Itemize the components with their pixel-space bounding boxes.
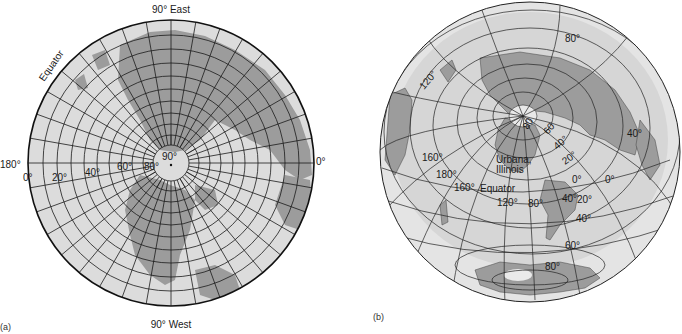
north-pole-dot xyxy=(170,164,172,166)
label-180: 180° xyxy=(0,159,21,170)
label-90-west: 90° West xyxy=(151,319,192,330)
label-lon-0-right: 0° xyxy=(605,174,615,185)
label-lat-80s: 80° xyxy=(545,261,560,272)
label-lat-40s: 40° xyxy=(576,213,591,224)
label-lon-160-b: 160° xyxy=(454,182,475,193)
label-0-deg: 0° xyxy=(316,156,326,167)
label-lat-60s: 60° xyxy=(565,240,580,251)
label-lat-20: 20° xyxy=(52,172,67,183)
label-illinois: Illinois xyxy=(496,164,524,175)
polar-map-a: 90° East 90° West 180° 0° Equator 90° 80… xyxy=(0,4,326,330)
label-90-east: 90° East xyxy=(152,4,190,15)
label-center-90: 90° xyxy=(162,151,177,162)
map-figure: 90° East 90° West 180° 0° Equator 90° 80… xyxy=(0,0,682,334)
label-lat-20s: 20° xyxy=(577,194,592,205)
panel-label-b: (b) xyxy=(373,312,384,322)
label-lon-180: 180° xyxy=(436,169,457,180)
label-lat-40-east: 40° xyxy=(627,128,642,139)
label-lat-60: 60° xyxy=(117,161,132,172)
azimuthal-map-b: 80° 120° 80 60 40° 20° 40° 160° Urbana, … xyxy=(380,2,680,305)
label-lat-0: 0° xyxy=(23,172,33,183)
label-lon-0: 0° xyxy=(572,174,582,185)
label-lon-120: 120° xyxy=(497,197,518,208)
label-lat-80: 80° xyxy=(144,161,159,172)
label-lon-80: 80° xyxy=(528,198,543,209)
label-lon-160: 160° xyxy=(422,152,443,163)
label-equator-b: Equator xyxy=(480,183,516,194)
panel-label-a: (a) xyxy=(0,322,11,332)
label-lon-40: 40° xyxy=(562,193,577,204)
label-lat-80-top: 80° xyxy=(565,33,580,44)
label-lat-40: 40° xyxy=(85,167,100,178)
